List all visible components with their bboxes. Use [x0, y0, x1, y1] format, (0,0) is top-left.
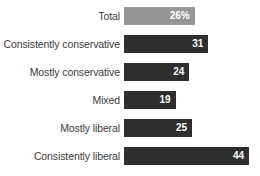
bar-row: Mixed 19	[0, 91, 260, 109]
bar-mixed[interactable]: 19	[124, 91, 176, 109]
bar-row: Mostly liberal 25	[0, 119, 260, 137]
bar-value-label: 19	[160, 91, 171, 109]
bar-chart: Total 26% Consistently conservative 31 M…	[0, 0, 260, 176]
bar-row: Mostly conservative 24	[0, 63, 260, 81]
bar-consistently-conservative[interactable]: 31	[124, 35, 208, 53]
bar-track: 24	[124, 63, 260, 81]
bar-category-label: Mixed	[0, 91, 124, 109]
bar-mostly-liberal[interactable]: 25	[124, 119, 192, 137]
bar-row: Total 26%	[0, 7, 260, 25]
bar-track: 19	[124, 91, 260, 109]
bar-category-label: Consistently liberal	[0, 147, 124, 165]
bar-track: 26%	[124, 7, 260, 25]
bar-rows: Total 26% Consistently conservative 31 M…	[0, 7, 260, 165]
bar-value-label: 31	[192, 35, 203, 53]
bar-category-label: Mostly conservative	[0, 63, 124, 81]
bar-row: Consistently liberal 44	[0, 147, 260, 165]
bar-value-label: 26%	[170, 7, 190, 25]
bar-value-label: 24	[173, 63, 184, 81]
bar-category-label: Consistently conservative	[0, 35, 124, 53]
bar-mostly-conservative[interactable]: 24	[124, 63, 189, 81]
bar-value-label: 44	[233, 147, 244, 165]
bar-consistently-liberal[interactable]: 44	[124, 147, 249, 165]
bar-value-label: 25	[176, 119, 187, 137]
bar-track: 31	[124, 35, 260, 53]
bar-track: 25	[124, 119, 260, 137]
bar-category-label: Mostly liberal	[0, 119, 124, 137]
bar-row: Consistently conservative 31	[0, 35, 260, 53]
bar-track: 44	[124, 147, 260, 165]
bar-total[interactable]: 26%	[124, 7, 195, 25]
bar-category-label: Total	[0, 7, 124, 25]
